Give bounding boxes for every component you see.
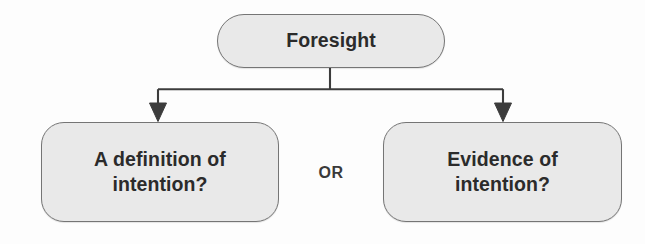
diagram-canvas: Foresight A definition of intention? OR …: [0, 0, 645, 244]
node-evidence-of-intention[interactable]: Evidence of intention?: [383, 122, 622, 222]
node-foresight-label: Foresight: [286, 28, 376, 53]
arrowhead-right-icon: [495, 103, 512, 122]
or-separator-label: OR: [291, 160, 371, 186]
node-definition-of-intention[interactable]: A definition of intention?: [41, 122, 279, 222]
node-foresight[interactable]: Foresight: [217, 14, 445, 68]
node-definition-of-intention-label: A definition of intention?: [94, 147, 226, 198]
arrowhead-left-icon: [150, 103, 167, 122]
node-evidence-of-intention-label: Evidence of intention?: [447, 147, 558, 198]
